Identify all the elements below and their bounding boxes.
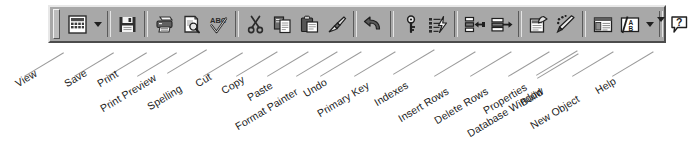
toolbar-button-paste[interactable] — [296, 11, 323, 37]
leader-line-help — [612, 51, 654, 77]
abc-check-icon: ABC — [208, 15, 229, 34]
callout-label-view: View — [13, 67, 39, 89]
toolbar-button-undo[interactable] — [360, 11, 387, 37]
help-question-icon: ? — [670, 15, 689, 34]
toolbar-button-view[interactable] — [64, 11, 91, 37]
indexes-lightning-icon — [428, 15, 448, 34]
undo-arrow-icon — [363, 15, 384, 34]
toolbar-separator — [390, 11, 394, 37]
chevron-down-icon — [94, 22, 102, 27]
printer-icon — [155, 15, 175, 34]
toolbar-button-indexes[interactable] — [424, 11, 451, 37]
toolbar-grip[interactable] — [53, 9, 60, 39]
grid-table-icon — [68, 15, 87, 34]
toolbar-button-properties[interactable] — [525, 11, 552, 37]
leader-line-indexes — [393, 49, 435, 75]
svg-text:B: B — [628, 24, 633, 31]
toolbar-separator — [353, 11, 357, 37]
new-object-icon: A B — [620, 15, 640, 34]
callout-label-save: Save — [62, 66, 89, 89]
chevron-down-icon — [657, 17, 665, 22]
view-dropdown-arrow[interactable] — [91, 11, 104, 37]
toolbar-button-primary-key[interactable] — [397, 11, 424, 37]
toolbar-button-build[interactable] — [552, 11, 579, 37]
callout-label-spelling: Spelling — [145, 82, 184, 112]
toolbar-button-database-window[interactable] — [589, 11, 616, 37]
help-dropdown-arrow[interactable] — [654, 12, 667, 26]
page-magnifier-icon — [182, 15, 201, 34]
leader-line-print-preview — [137, 52, 177, 77]
callout-label-undo: Undo — [301, 76, 329, 99]
toolbar-separator — [144, 11, 148, 37]
toolbar-separator — [582, 11, 586, 37]
toolbar-button-format-painter[interactable] — [323, 11, 350, 37]
toolbar-button-help[interactable]: ? — [666, 11, 692, 37]
leader-line-primary-key — [354, 51, 396, 77]
toolbar-button-spelling[interactable]: ABC — [205, 11, 232, 37]
key-icon — [404, 15, 418, 34]
scissors-icon — [247, 15, 264, 34]
database-window-icon — [593, 15, 613, 34]
toolbar-separator — [235, 11, 239, 37]
leader-line-insert-rows — [434, 51, 476, 77]
insert-rows-icon — [464, 15, 486, 34]
clipboard-paste-icon — [300, 15, 319, 34]
callout-label-copy: Copy — [219, 73, 247, 96]
toolbar-separator — [454, 11, 458, 37]
callout-label-cut: Cut — [193, 70, 213, 89]
toolbar-separator — [107, 11, 111, 37]
leader-line-delete-rows — [470, 51, 512, 77]
toolbar-button-cut[interactable] — [242, 11, 269, 37]
chevron-down-icon — [646, 22, 654, 27]
svg-text:?: ? — [676, 16, 682, 28]
magic-wand-icon — [556, 15, 576, 34]
toolbar-button-print-preview[interactable] — [178, 11, 205, 37]
leader-line-undo — [320, 51, 362, 77]
design-toolbar: ABC — [48, 5, 666, 43]
floppy-disk-icon — [118, 15, 137, 34]
callout-label-print: Print — [95, 67, 120, 89]
toolbar-button-save[interactable] — [114, 11, 141, 37]
toolbar-button-insert-rows[interactable] — [461, 11, 488, 37]
paintbrush-icon — [327, 15, 347, 34]
leader-line-new-object — [572, 51, 614, 77]
toolbar-button-delete-rows[interactable] — [488, 11, 515, 37]
properties-hand-icon — [529, 15, 549, 34]
callout-label-indexes: Indexes — [372, 79, 410, 109]
callout-label-help: Help — [593, 75, 618, 97]
toolbar-separator — [518, 11, 522, 37]
delete-rows-icon — [491, 15, 513, 34]
toolbar-button-print[interactable] — [151, 11, 178, 37]
copy-pages-icon — [273, 15, 292, 34]
toolbar-button-copy[interactable] — [269, 11, 296, 37]
toolbar-button-new-object[interactable]: A B — [616, 11, 643, 37]
